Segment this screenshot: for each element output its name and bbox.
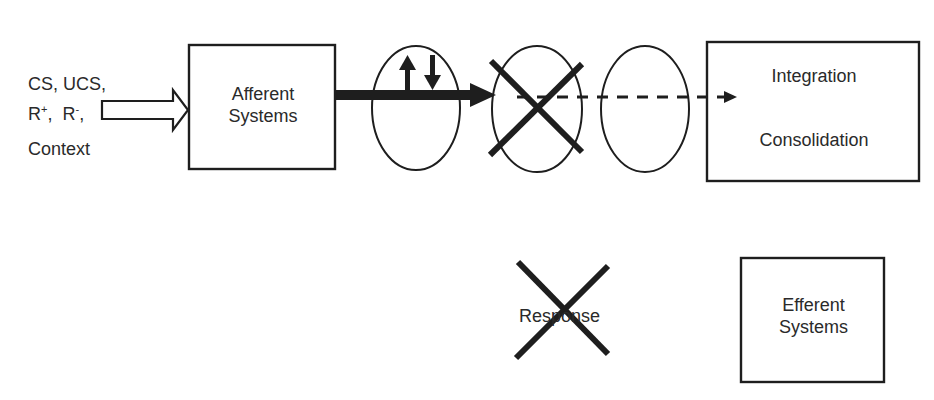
- input-label-line2: R+, R-,: [28, 103, 84, 125]
- down-arrow-icon: [424, 55, 441, 90]
- efferent-systems-label: Efferent Systems: [741, 294, 886, 338]
- afferent-line2: Systems: [189, 105, 337, 127]
- ellipse-1: [372, 46, 460, 170]
- r-sep: , R: [47, 104, 75, 124]
- up-arrow-icon: [399, 55, 416, 92]
- efferent-line2: Systems: [741, 316, 886, 338]
- ellipse-3: [601, 46, 689, 172]
- integration-label: Integration: [707, 65, 921, 87]
- integration-consolidation-box: [707, 42, 919, 181]
- diagram-canvas: [0, 0, 934, 400]
- input-label-line1: CS, UCS,: [28, 73, 106, 95]
- afferent-systems-label: Afferent Systems: [189, 83, 337, 127]
- input-hollow-arrow: [102, 90, 188, 130]
- afferent-line1: Afferent: [189, 83, 337, 105]
- cross-mark-icon: [490, 61, 582, 155]
- r-end: ,: [79, 104, 84, 124]
- efferent-line1: Efferent: [741, 294, 886, 316]
- consolidation-label: Consolidation: [707, 129, 921, 151]
- thick-solid-arrow: [335, 83, 496, 107]
- response-label: Response: [519, 305, 600, 327]
- r-label: R: [28, 104, 41, 124]
- input-label-line3: Context: [28, 138, 90, 160]
